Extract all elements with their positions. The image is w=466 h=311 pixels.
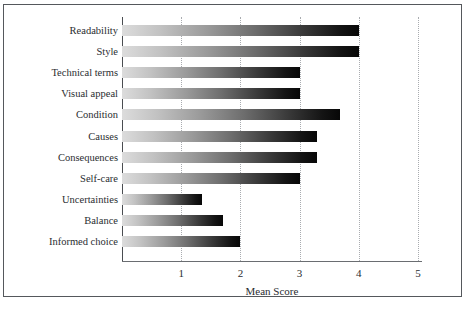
bar-style bbox=[122, 46, 359, 57]
bar-row bbox=[122, 46, 422, 57]
bar-uncertainties bbox=[122, 194, 202, 205]
bar-row bbox=[122, 25, 422, 36]
x-tick-label-1: 1 bbox=[169, 267, 193, 279]
category-label-consequences: Consequences bbox=[6, 152, 118, 163]
bar-row bbox=[122, 194, 422, 205]
bar-row bbox=[122, 152, 422, 163]
category-label-visual-appeal: Visual appeal bbox=[6, 88, 118, 99]
bar-consequences bbox=[122, 152, 317, 163]
bar-informed-choice bbox=[122, 236, 240, 247]
bar-condition bbox=[122, 109, 340, 120]
bar-row bbox=[122, 131, 422, 142]
bar-row bbox=[122, 173, 422, 184]
category-label-style: Style bbox=[6, 46, 118, 57]
x-tick-label-4: 4 bbox=[347, 267, 371, 279]
plot-area: 12345 Mean Score bbox=[122, 17, 422, 261]
bar-row bbox=[122, 236, 422, 247]
bar-visual-appeal bbox=[122, 88, 300, 99]
category-label-balance: Balance bbox=[6, 215, 118, 226]
x-axis-title: Mean Score bbox=[122, 285, 422, 297]
category-axis-labels: ReadabilityStyleTechnical termsVisual ap… bbox=[4, 17, 118, 261]
category-label-uncertainties: Uncertainties bbox=[6, 194, 118, 205]
category-label-readability: Readability bbox=[6, 25, 118, 36]
category-label-informed-choice: Informed choice bbox=[6, 236, 118, 247]
category-label-technical-terms: Technical terms bbox=[6, 67, 118, 78]
bar-self-care bbox=[122, 173, 300, 184]
chart-frame: ReadabilityStyleTechnical termsVisual ap… bbox=[3, 4, 462, 297]
category-label-causes: Causes bbox=[6, 131, 118, 142]
x-axis-line bbox=[122, 261, 422, 262]
x-tick-label-3: 3 bbox=[288, 267, 312, 279]
bar-row bbox=[122, 215, 422, 226]
bar-row bbox=[122, 67, 422, 78]
bar-causes bbox=[122, 131, 317, 142]
category-label-self-care: Self-care bbox=[6, 173, 118, 184]
bar-balance bbox=[122, 215, 223, 226]
category-label-condition: Condition bbox=[6, 109, 118, 120]
bar-technical-terms bbox=[122, 67, 300, 78]
bar-row bbox=[122, 109, 422, 120]
x-tick-label-5: 5 bbox=[406, 267, 430, 279]
bar-readability bbox=[122, 25, 359, 36]
bar-row bbox=[122, 88, 422, 99]
x-tick-label-2: 2 bbox=[228, 267, 252, 279]
